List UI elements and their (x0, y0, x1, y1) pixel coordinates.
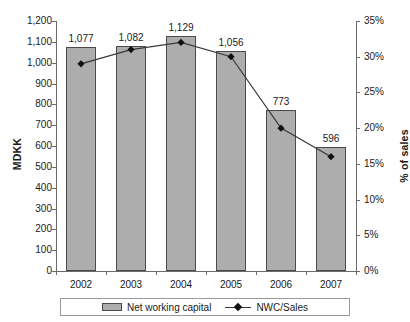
diamond-marker-icon (177, 39, 184, 46)
legend-item-net-working-capital: Net working capital (102, 302, 211, 313)
legend-bar-swatch (102, 303, 122, 311)
diamond-marker-icon (227, 53, 234, 60)
diamond-marker-icon (327, 153, 334, 160)
legend-item-nwc-sales: NWC/Sales (225, 302, 308, 313)
legend-line-swatch (225, 303, 251, 311)
chart-container: Net working capital MDKK % of sales 0100… (0, 0, 410, 322)
diamond-marker-icon (234, 303, 242, 311)
diamond-marker-icon (77, 60, 84, 67)
legend-label-net-working-capital: Net working capital (127, 302, 211, 313)
legend-label-nwc-sales: NWC/Sales (256, 302, 308, 313)
nwc-sales-line (81, 42, 331, 156)
diamond-marker-icon (127, 46, 134, 53)
chart-legend: Net working capital NWC/Sales (60, 298, 350, 316)
diamond-marker-icon (277, 125, 284, 132)
line-series-nwc-sales (0, 0, 410, 322)
